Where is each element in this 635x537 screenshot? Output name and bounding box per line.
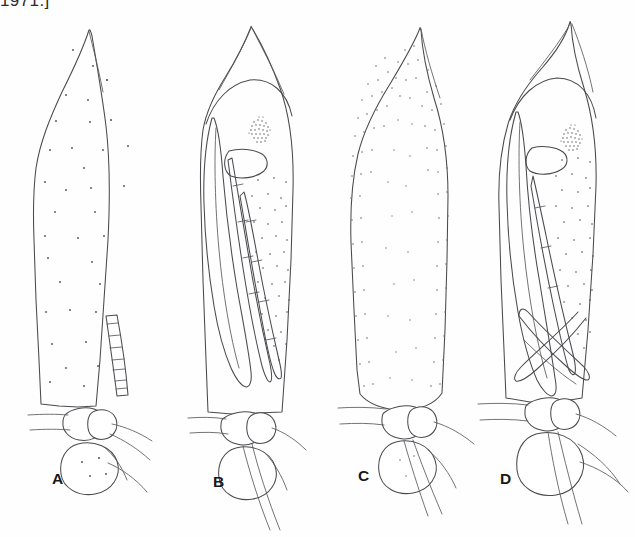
panel-label-c: C bbox=[358, 467, 369, 484]
panel-d-drawing bbox=[478, 21, 628, 524]
panel-label-b: B bbox=[213, 473, 224, 490]
panel-d-compound-eye bbox=[560, 124, 582, 150]
figure-plate-svg: A bbox=[0, 0, 635, 537]
panel-d-stipple bbox=[555, 157, 594, 349]
panel-c-drawing bbox=[338, 27, 474, 516]
figure-plate: A bbox=[0, 0, 635, 537]
panel-label-d: D bbox=[500, 470, 511, 487]
panel-b-stipple bbox=[251, 177, 290, 361]
panel-b-compound-eye bbox=[248, 116, 270, 142]
panel-a-drawing bbox=[28, 30, 152, 495]
panel-b-drawing bbox=[188, 26, 306, 530]
panel-label-a: A bbox=[52, 470, 63, 487]
scanned-page: 1971.] bbox=[0, 0, 635, 537]
